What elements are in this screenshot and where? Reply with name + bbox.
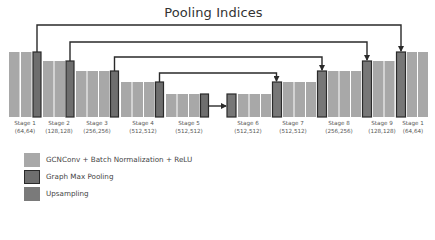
stage-label: Stage 7(512,512)	[271, 120, 315, 135]
stage-name: Stage 6	[226, 120, 270, 128]
decoder-stage-6	[227, 94, 271, 117]
pool-swatch	[24, 170, 40, 184]
upsample-block	[227, 94, 236, 117]
legend-item-pool: Graph Max Pooling	[24, 168, 192, 185]
stage-size: (512,512)	[271, 128, 315, 136]
connector-stage1	[37, 25, 401, 52]
stage-size: (512,512)	[167, 128, 211, 136]
legend-label: Upsampling	[46, 189, 89, 198]
decoder-stage-9	[363, 61, 395, 117]
decoder-stage-final	[397, 52, 429, 117]
legend-label: GCNConv + Batch Normalization + ReLU	[46, 155, 192, 164]
connector-stage4	[160, 73, 277, 82]
decoder-stage-7	[273, 82, 317, 117]
encoder-stage-1	[9, 52, 41, 117]
stage-label: Stage 6(512,512)	[226, 120, 270, 135]
stage-name: Stage 3	[75, 120, 119, 128]
stage-size: (512,512)	[226, 128, 270, 136]
encoder-stage-4	[121, 82, 164, 117]
pool-block	[156, 82, 164, 117]
stage-label: Stage 1(64,64)	[391, 120, 435, 135]
stage-name: Stage 8	[317, 120, 361, 128]
encoder-stage-3	[76, 71, 119, 117]
encoder-stage-5	[166, 94, 209, 117]
legend-label: Graph Max Pooling	[46, 172, 113, 181]
stage-label: Stage 5(512,512)	[167, 120, 211, 135]
stage-label: Stage 3(256,256)	[75, 120, 119, 135]
stage-name: Stage 5	[167, 120, 211, 128]
stage-size: (256,256)	[75, 128, 119, 136]
stage-size: (512,512)	[121, 128, 165, 136]
upsample-block	[363, 61, 372, 117]
conv-swatch	[24, 153, 40, 167]
stage-size: (256,256)	[317, 128, 361, 136]
decoder-stage-8	[318, 71, 362, 117]
connector-stage3	[115, 57, 323, 71]
legend-item-conv: GCNConv + Batch Normalization + ReLU	[24, 151, 192, 168]
pool-block	[66, 61, 74, 117]
stage-name: Stage 1	[391, 120, 435, 128]
stage-label: Stage 4(512,512)	[121, 120, 165, 135]
pool-block	[33, 52, 41, 117]
upsample-swatch	[24, 187, 40, 201]
stage-label: Stage 8(256,256)	[317, 120, 361, 135]
upsample-block	[318, 71, 327, 117]
pool-block	[111, 71, 119, 117]
legend-item-upsample: Upsampling	[24, 185, 192, 202]
legend: GCNConv + Batch Normalization + ReLU Gra…	[24, 151, 192, 202]
pool-block	[201, 94, 209, 117]
stage-size: (64,64)	[391, 128, 435, 136]
stage-name: Stage 7	[271, 120, 315, 128]
upsample-block	[397, 52, 406, 117]
stage-name: Stage 4	[121, 120, 165, 128]
encoder-stage-2	[43, 61, 74, 117]
upsample-block	[273, 82, 282, 117]
